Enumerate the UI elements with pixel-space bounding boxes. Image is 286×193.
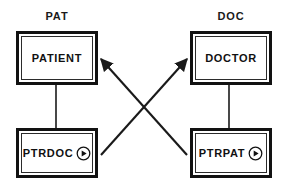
entity-box-inner: PATIENT	[21, 36, 93, 80]
entity-box-doctor[interactable]: DOCTOR	[190, 31, 272, 85]
entity-box-ptrpat[interactable]: PTRPAT	[190, 128, 272, 178]
entity-label-ptrpat: PTRPAT	[199, 148, 246, 159]
group-caption-doc: DOC	[190, 11, 272, 22]
entity-pointer-diagram: PAT DOC PATIENT DOCTOR PTRDOC PTRPAT	[0, 0, 286, 193]
play-circle-icon	[248, 146, 263, 161]
entity-box-ptrdoc[interactable]: PTRDOC	[16, 128, 98, 178]
entity-label-ptrdoc: PTRDOC	[23, 148, 74, 159]
entity-box-inner: DOCTOR	[195, 36, 267, 80]
entity-box-inner: PTRPAT	[195, 133, 267, 173]
entity-label-patient: PATIENT	[32, 53, 82, 64]
entity-label-doctor: DOCTOR	[205, 53, 257, 64]
play-circle-icon	[76, 146, 91, 161]
group-caption-pat: PAT	[16, 11, 98, 22]
entity-box-inner: PTRDOC	[21, 133, 93, 173]
entity-box-patient[interactable]: PATIENT	[16, 31, 98, 85]
